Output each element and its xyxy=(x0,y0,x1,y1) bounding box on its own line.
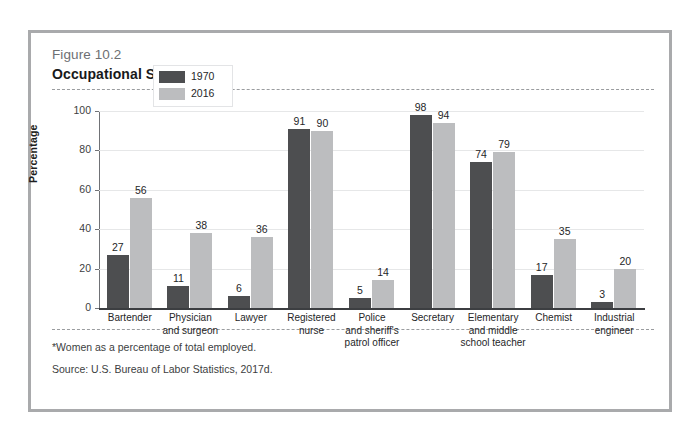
x-axis-category-label: Industrialengineer xyxy=(575,312,653,337)
y-axis-tick-label: 20 xyxy=(57,262,91,274)
bar-value-label: 38 xyxy=(186,219,216,231)
plot-area: 2756Bartender1138Physicianand surgeon636… xyxy=(99,111,644,308)
bar-group: 9894Secretary xyxy=(410,111,455,308)
bar-value-label: 6 xyxy=(224,282,254,294)
divider-top xyxy=(52,89,654,90)
footnote-text: *Women as a percentage of total employed… xyxy=(52,341,256,353)
y-axis-tick-label: 80 xyxy=(57,143,91,155)
source-text: Source: U.S. Bureau of Labor Statistics,… xyxy=(52,363,273,375)
bar-value-label: 27 xyxy=(103,241,133,253)
figure-container: Figure 10.2 Occupational Segregation Per… xyxy=(28,30,672,412)
bar-value-label: 17 xyxy=(527,261,557,273)
bar-1970 xyxy=(349,298,371,308)
bar-1970 xyxy=(470,162,492,308)
bar-2016 xyxy=(190,233,212,308)
y-axis-tick-mark xyxy=(95,308,99,309)
bar-group: 1138Physicianand surgeon xyxy=(167,111,212,308)
bar-group: 514Policeand sheriff'spatrol officer xyxy=(349,111,394,308)
bar-value-label: 94 xyxy=(429,109,459,121)
bar-value-label: 56 xyxy=(126,184,156,196)
bar-group: 636Lawyer xyxy=(228,111,273,308)
legend-swatch-1970 xyxy=(159,71,185,83)
bar-group: 7479Elementaryand middleschool teacher xyxy=(470,111,515,308)
x-axis-line xyxy=(99,308,645,310)
bar-1970 xyxy=(410,115,432,308)
bar-group: 320Industrialengineer xyxy=(591,111,636,308)
bar-value-label: 79 xyxy=(489,138,519,150)
bar-2016 xyxy=(554,239,576,308)
bar-value-label: 35 xyxy=(550,225,580,237)
legend-swatch-2016 xyxy=(159,88,185,100)
bar-value-label: 90 xyxy=(307,117,337,129)
bar-1970 xyxy=(107,255,129,308)
bar-2016 xyxy=(614,269,636,308)
y-axis-tick-label: 0 xyxy=(57,301,91,313)
bar-group: 2756Bartender xyxy=(107,111,152,308)
bar-group: 1735Chemist xyxy=(531,111,576,308)
bar-value-label: 36 xyxy=(247,223,277,235)
bar-2016 xyxy=(311,131,333,308)
bar-1970 xyxy=(591,302,613,308)
bar-2016 xyxy=(372,280,394,308)
bar-2016 xyxy=(251,237,273,308)
figure-number: Figure 10.2 xyxy=(52,47,121,62)
bar-value-label: 11 xyxy=(163,272,193,284)
bar-2016 xyxy=(433,123,455,308)
bar-value-label: 5 xyxy=(345,284,375,296)
bar-1970 xyxy=(228,296,250,308)
bar-1970 xyxy=(167,286,189,308)
bar-value-label: 14 xyxy=(368,266,398,278)
legend-label-1970: 1970 xyxy=(191,70,214,82)
bar-1970 xyxy=(288,129,310,308)
legend-label-2016: 2016 xyxy=(191,87,214,99)
y-axis-label: Percentage xyxy=(27,124,39,183)
bar-2016 xyxy=(130,198,152,308)
legend: 1970 2016 xyxy=(153,65,233,107)
bar-1970 xyxy=(531,275,553,308)
y-axis-tick-label: 40 xyxy=(57,222,91,234)
bar-2016 xyxy=(493,152,515,308)
bar-value-label: 3 xyxy=(587,288,617,300)
bar-group: 9190Registerednurse xyxy=(288,111,333,308)
y-axis-tick-label: 60 xyxy=(57,183,91,195)
bar-value-label: 20 xyxy=(610,255,640,267)
y-axis-tick-label: 100 xyxy=(57,104,91,116)
